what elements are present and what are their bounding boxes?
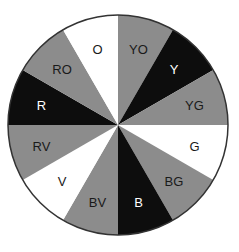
segment-label-g: G (189, 139, 199, 154)
segment-label-y: Y (170, 62, 179, 77)
segment-label-b: B (134, 195, 143, 210)
segment-label-v: V (58, 174, 67, 189)
color-wheel: YOYYGGBGBBVVRVRROO (0, 0, 239, 252)
segment-label-r: R (37, 98, 46, 113)
segment-label-yg: YG (185, 98, 204, 113)
segment-label-ro: RO (52, 62, 72, 77)
segment-label-bg: BG (165, 174, 184, 189)
segment-label-yo: YO (129, 42, 148, 57)
segment-label-rv: RV (33, 139, 51, 154)
segment-label-bv: BV (89, 195, 107, 210)
wheel-segments (8, 15, 228, 235)
segment-label-o: O (92, 42, 102, 57)
